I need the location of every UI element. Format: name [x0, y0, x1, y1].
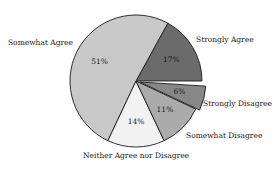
category-label-somewhat-disagree: Somewhat Disagree — [186, 131, 263, 140]
category-label-somewhat-agree: Somewhat Agree — [8, 38, 74, 47]
category-label-neither-agree-nor-disagree: Neither Agree nor Disagree — [83, 151, 190, 160]
percent-label-somewhat-agree: 51% — [91, 57, 108, 66]
pie-slices — [70, 15, 206, 147]
category-label-strongly-disagree: Strongly Disagree — [203, 99, 272, 108]
percent-label-somewhat-disagree: 11% — [157, 105, 174, 114]
pie-chart: 17%51%14%11%6% Strongly AgreeSomewhat Ag… — [0, 0, 278, 170]
percent-label-strongly-disagree: 6% — [174, 87, 186, 96]
category-label-strongly-agree: Strongly Agree — [196, 35, 254, 44]
percent-label-neither-agree-nor-disagree: 14% — [128, 117, 145, 126]
percent-label-strongly-agree: 17% — [163, 55, 180, 64]
